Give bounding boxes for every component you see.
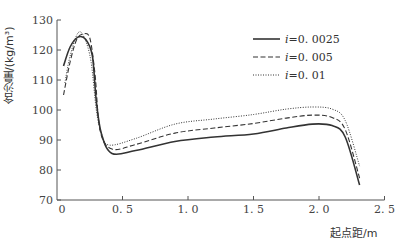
x-tick-label: 2. 0 xyxy=(309,203,330,216)
legend: i=0. 0025i=0. 005i=0. 01 xyxy=(253,33,340,82)
line-chart: 708090100110120130 00. 51. 01. 52. 02. 5… xyxy=(0,0,407,240)
x-axis-label: 起点距/m xyxy=(330,224,377,240)
y-axis-label: 含沙量/(kg/m³) xyxy=(2,20,20,110)
y-tick-label: 90 xyxy=(39,134,53,147)
legend-label: i=0. 0025 xyxy=(285,33,340,46)
legend-label: i=0. 01 xyxy=(285,69,326,82)
y-tick-label: 100 xyxy=(32,104,53,117)
x-tick-label: 2. 5 xyxy=(374,203,395,216)
y-tick-label: 80 xyxy=(39,164,53,177)
y-tick-label: 110 xyxy=(32,74,53,87)
y-tick-label: 70 xyxy=(39,194,53,207)
x-tick-label: 0. 5 xyxy=(112,203,133,216)
y-tick-label: 120 xyxy=(32,44,53,57)
x-tick-label: 0 xyxy=(59,203,66,216)
y-tick-label: 130 xyxy=(32,14,53,27)
x-tick-label: 1. 5 xyxy=(243,203,264,216)
x-axis-ticks: 00. 51. 01. 52. 02. 5 xyxy=(59,196,396,216)
legend-label: i=0. 005 xyxy=(285,51,333,64)
x-tick-label: 1. 0 xyxy=(178,203,199,216)
